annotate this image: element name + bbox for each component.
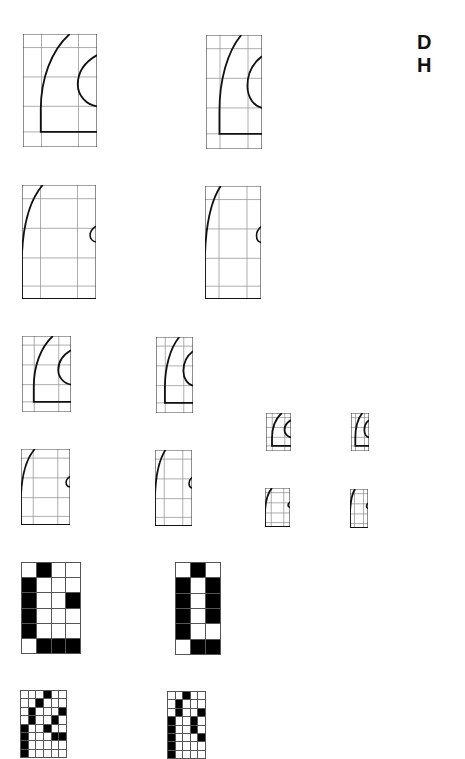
bitmap-cell-filled bbox=[22, 609, 36, 623]
bitmap-cell-filled bbox=[52, 716, 59, 723]
bitmap-cell-filled bbox=[66, 639, 80, 653]
bitmap-cell-filled bbox=[37, 639, 51, 653]
bitmap-cell-empty bbox=[36, 691, 43, 698]
bitmap-cell-empty bbox=[29, 725, 36, 732]
bitmap-cell-filled bbox=[29, 708, 36, 715]
bitmap-cell-empty bbox=[29, 699, 36, 706]
bitmap-cell-filled bbox=[21, 733, 28, 740]
glyph-outline-tall-narrow bbox=[205, 186, 261, 299]
bitmap-cell-filled bbox=[176, 578, 190, 592]
bitmap-cell-filled bbox=[191, 717, 198, 724]
bitmap-cell-filled bbox=[168, 717, 175, 724]
bitmap-cell-empty bbox=[52, 750, 59, 757]
bitmap-cell-empty bbox=[168, 692, 175, 699]
bitmap-cell-empty bbox=[37, 593, 51, 607]
bitmap-cell-empty bbox=[52, 708, 59, 715]
bitmap-cell-empty bbox=[191, 742, 198, 749]
bitmap-cell-filled bbox=[44, 725, 51, 732]
bitmap-cell-filled bbox=[21, 750, 28, 757]
bitmap-cell-empty bbox=[29, 741, 36, 748]
bitmap-cell-empty bbox=[52, 624, 66, 638]
bitmap-cell-empty bbox=[198, 751, 205, 758]
bitmap-cell-filled bbox=[206, 578, 220, 592]
bitmap-cell-filled bbox=[44, 691, 51, 698]
bitmap-cell-filled bbox=[176, 700, 183, 707]
bitmap-cell-filled bbox=[37, 563, 51, 577]
bitmap-cell-filled bbox=[52, 639, 66, 653]
bitmap-cell-empty bbox=[36, 725, 43, 732]
glyph-outline-medium-tall-narrow bbox=[155, 450, 192, 526]
bitmap-cell-empty bbox=[36, 750, 43, 757]
bitmap-cell-empty bbox=[22, 639, 36, 653]
bitmap-cell-empty bbox=[52, 593, 66, 607]
bitmap-cell-filled bbox=[206, 594, 220, 608]
bitmap-cell-filled bbox=[21, 741, 28, 748]
bitmap-small-narrow bbox=[167, 691, 206, 759]
bitmap-large-narrow bbox=[175, 562, 221, 655]
glyph-outline-medium-tall-wide bbox=[21, 449, 70, 525]
bitmap-cell-filled bbox=[66, 593, 80, 607]
bitmap-cell-empty bbox=[44, 708, 51, 715]
bitmap-cell-empty bbox=[198, 692, 205, 699]
bitmap-cell-empty bbox=[36, 708, 43, 715]
bitmap-cell-empty bbox=[191, 734, 198, 741]
glyph-outline-medium-wide bbox=[22, 336, 71, 412]
bitmap-cell-empty bbox=[44, 741, 51, 748]
bitmap-cell-empty bbox=[21, 716, 28, 723]
bitmap-cell-empty bbox=[176, 751, 183, 758]
bitmap-cell-empty bbox=[176, 640, 190, 654]
bitmap-cell-filled bbox=[59, 733, 66, 740]
bitmap-cell-empty bbox=[191, 594, 205, 608]
bitmap-cell-filled bbox=[183, 692, 190, 699]
bitmap-cell-empty bbox=[21, 708, 28, 715]
bitmap-cell-filled bbox=[29, 716, 36, 723]
bitmap-cell-empty bbox=[44, 733, 51, 740]
bitmap-cell-filled bbox=[191, 726, 198, 733]
bitmap-cell-empty bbox=[66, 609, 80, 623]
glyph-outline-small-narrow bbox=[351, 413, 369, 451]
bitmap-cell-empty bbox=[191, 709, 198, 716]
bitmap-cell-filled bbox=[52, 733, 59, 740]
bitmap-cell-empty bbox=[36, 741, 43, 748]
label-d: D bbox=[417, 31, 431, 54]
bitmap-cell-empty bbox=[168, 709, 175, 716]
bitmap-cell-empty bbox=[36, 716, 43, 723]
bitmap-cell-empty bbox=[176, 692, 183, 699]
bitmap-cell-empty bbox=[29, 691, 36, 698]
bitmap-cell-empty bbox=[59, 699, 66, 706]
bitmap-large-wide bbox=[21, 562, 81, 654]
bitmap-cell-empty bbox=[176, 726, 183, 733]
bitmap-cell-filled bbox=[22, 624, 36, 638]
bitmap-cell-empty bbox=[52, 699, 59, 706]
bitmap-cell-empty bbox=[176, 563, 190, 577]
bitmap-cell-empty bbox=[183, 726, 190, 733]
bitmap-cell-filled bbox=[176, 594, 190, 608]
bitmap-cell-filled bbox=[36, 699, 43, 706]
bitmap-cell-empty bbox=[183, 734, 190, 741]
bitmap-cell-filled bbox=[176, 609, 190, 623]
bitmap-cell-empty bbox=[44, 699, 51, 706]
bitmap-cell-empty bbox=[198, 726, 205, 733]
bitmap-cell-filled bbox=[168, 734, 175, 741]
bitmap-cell-empty bbox=[206, 624, 220, 638]
bitmap-cell-empty bbox=[44, 750, 51, 757]
bitmap-cell-empty bbox=[59, 750, 66, 757]
glyph-outline-small-tall-wide bbox=[265, 488, 290, 527]
bitmap-cell-empty bbox=[198, 742, 205, 749]
bitmap-cell-filled bbox=[198, 709, 205, 716]
bitmap-cell-empty bbox=[191, 609, 205, 623]
bitmap-cell-filled bbox=[191, 563, 205, 577]
bitmap-cell-empty bbox=[191, 624, 205, 638]
bitmap-cell-empty bbox=[29, 733, 36, 740]
bitmap-cell-filled bbox=[22, 593, 36, 607]
bitmap-cell-empty bbox=[168, 700, 175, 707]
bitmap-cell-filled bbox=[168, 726, 175, 733]
glyph-outline-medium-narrow bbox=[156, 337, 193, 413]
bitmap-cell-empty bbox=[59, 716, 66, 723]
bitmap-cell-empty bbox=[52, 725, 59, 732]
bitmap-cell-empty bbox=[37, 578, 51, 592]
bitmap-cell-empty bbox=[52, 741, 59, 748]
bitmap-cell-filled bbox=[198, 734, 205, 741]
bitmap-cell-filled bbox=[59, 708, 66, 715]
bitmap-cell-empty bbox=[183, 717, 190, 724]
